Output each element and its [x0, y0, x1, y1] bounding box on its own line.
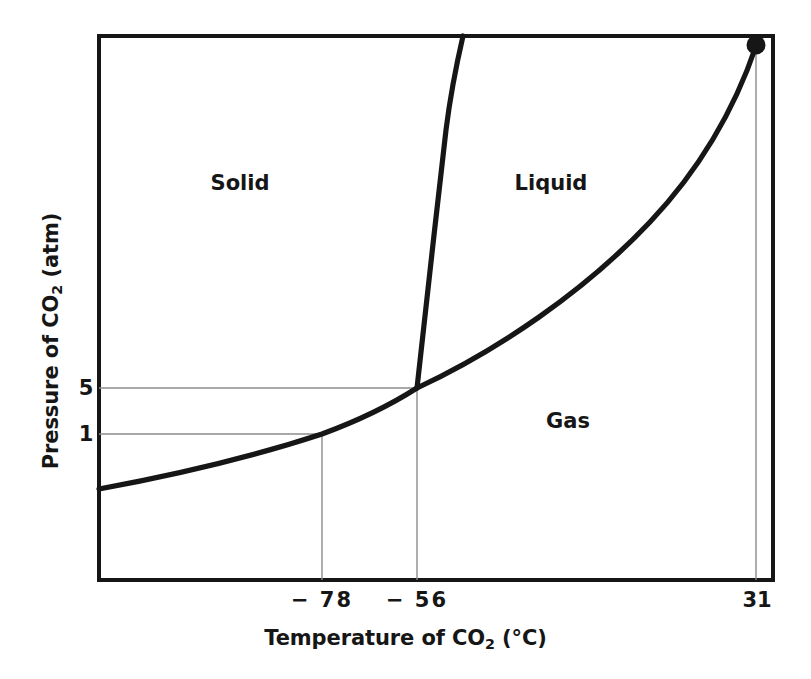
y-axis-title-container: Pressure of CO2 (atm) — [39, 131, 69, 551]
y-axis-title-suffix: (atm) — [39, 213, 63, 285]
region-label-liquid: Liquid — [515, 171, 588, 195]
phase-diagram-plot — [0, 0, 811, 679]
critical-point-marker — [747, 36, 766, 55]
y-axis-title-prefix: Pressure of CO — [39, 295, 63, 470]
x-tick-label-minus-56: − 56 — [386, 588, 448, 612]
x-axis-title-prefix: Temperature of CO — [264, 626, 485, 650]
y-axis-title-subscript: 2 — [49, 285, 65, 295]
region-label-gas: Gas — [546, 409, 590, 433]
y-axis-title: Pressure of CO2 (atm) — [39, 213, 65, 469]
region-label-solid: Solid — [211, 171, 270, 195]
x-tick-label-31: 31 — [742, 588, 771, 612]
x-axis-title: Temperature of CO2 (°C) — [0, 626, 811, 652]
phase-diagram-figure: Solid Liquid Gas 5 1 − 78 − 56 31 Temper… — [0, 0, 811, 679]
x-axis-title-suffix: (°C) — [495, 626, 547, 650]
y-tick-label-1: 1 — [79, 422, 94, 446]
plot-frame — [99, 36, 773, 580]
x-tick-label-minus-78: − 78 — [291, 588, 353, 612]
x-axis-title-subscript: 2 — [485, 636, 495, 652]
y-tick-label-5: 5 — [79, 376, 94, 400]
